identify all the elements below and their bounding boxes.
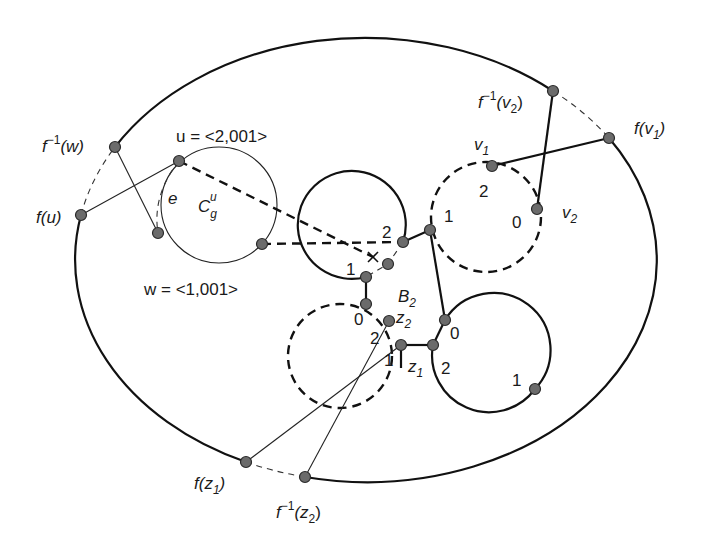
node-z2 [384, 316, 395, 327]
label-cgu: Cgu [198, 190, 217, 221]
node-w [153, 228, 164, 239]
label-f-z1: f(z1) [194, 474, 225, 497]
bottom-left-dashed-circle [288, 304, 392, 408]
dashed-c-to-top [262, 242, 403, 244]
line-v1-fv1 [492, 138, 609, 166]
node-top-inner [383, 259, 394, 270]
label-finv-v2: f−1(v2) [478, 89, 523, 116]
node-right-port1 [425, 225, 436, 236]
bottom-right-circle-upper [445, 293, 551, 389]
label-b2: B2 [398, 287, 416, 310]
line-fu-u [81, 161, 179, 215]
right-port-1: 1 [444, 207, 453, 226]
node-f-v1 [604, 133, 615, 144]
top-port-2: 2 [382, 223, 391, 242]
label-w-def: w = <1,001> [143, 280, 238, 299]
top-port-1: 1 [346, 260, 355, 279]
node-v1 [487, 161, 498, 172]
node-bl-port1 [396, 340, 407, 351]
node-f-u [76, 210, 87, 221]
label-z2: z2 [395, 308, 412, 331]
node-br-port1 [530, 384, 541, 395]
label-f-v1: f(v1) [634, 119, 665, 142]
node-br-port0 [440, 315, 451, 326]
node-finv-w [110, 142, 121, 153]
ellipse-arc-left [75, 215, 246, 462]
node-finv-z2 [300, 472, 311, 483]
node-cgu-right [257, 239, 268, 250]
label-e: e [168, 189, 177, 208]
node-v2 [532, 204, 543, 215]
label-v2: v2 [562, 203, 578, 226]
node-top-port2 [398, 237, 409, 248]
ellipse-gap-z [246, 462, 305, 477]
node-br-port2 [428, 340, 439, 351]
bl-port-1: 1 [384, 351, 393, 370]
br-port-1: 1 [512, 371, 521, 390]
label-f-u: f(u) [36, 208, 62, 227]
graph-diagram: f−1(w) f(u) u = <2,001> e Cgu w = <1,001… [0, 0, 712, 552]
cross-mark [368, 252, 378, 262]
outer-ellipse [75, 38, 657, 482]
label-finv-w: f−1(w) [42, 133, 84, 156]
label-finv-z2: f−1(z2) [276, 499, 321, 526]
node-u [174, 156, 185, 167]
labels: f−1(w) f(u) u = <2,001> e Cgu w = <1,001… [36, 89, 665, 526]
line-finvw-w [115, 147, 158, 233]
right-port-0: 0 [512, 213, 521, 232]
node-bl-port0 [361, 299, 372, 310]
line-v2-finvv2 [537, 91, 553, 209]
ellipse-gap-v [553, 91, 609, 138]
label-u-def: u = <2,001> [176, 127, 267, 146]
node-top-port1 [361, 272, 372, 283]
bl-port-2: 2 [370, 329, 379, 348]
br-port-0: 0 [450, 324, 459, 343]
line-z1-fz1 [246, 345, 401, 462]
node-f-z1 [241, 457, 252, 468]
node-finv-v2 [548, 86, 559, 97]
br-port-2: 2 [441, 359, 450, 378]
label-v1: v1 [474, 135, 489, 158]
right-port-2: 2 [479, 182, 488, 201]
ellipse-gap-w [81, 147, 115, 215]
edge-right1-br0 [430, 230, 445, 320]
label-z1: z1 [407, 357, 423, 380]
bl-port-0: 0 [354, 310, 363, 329]
